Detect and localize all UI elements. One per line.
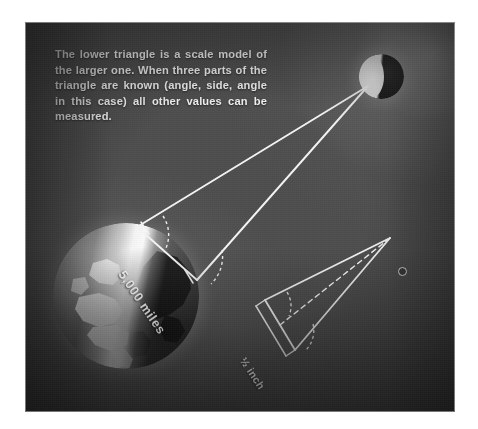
figure-page: 5,000 miles ½ inch The lower triangle is…	[0, 0, 478, 429]
photograph-plate: 5,000 miles ½ inch The lower triangle is…	[25, 22, 455, 412]
film-grain-overlay	[25, 22, 455, 412]
